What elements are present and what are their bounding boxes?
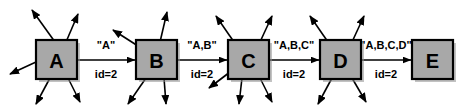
diagram-svg: "A"id=2"A,B"id=2"A,B,C"id=2"A,B,C,D"id=2… (0, 0, 468, 108)
edge-message-d-to-e: "A,B,C,D" (360, 39, 411, 51)
node-b[interactable]: B (136, 40, 180, 82)
node-label-a: A (49, 50, 63, 72)
node-a[interactable]: A (36, 40, 80, 82)
external-arrow-a-1 (66, 14, 78, 42)
edge-id-a-to-b: id=2 (95, 68, 117, 80)
edge-id-b-to-c: id=2 (191, 68, 213, 80)
edge-id-d-to-e: id=2 (375, 68, 397, 80)
node-d[interactable]: D (320, 40, 364, 82)
node-label-b: B (149, 50, 163, 72)
node-label-c: C (241, 50, 255, 72)
diagram-canvas: "A"id=2"A,B"id=2"A,B,C"id=2"A,B,C,D"id=2… (0, 0, 468, 108)
external-arrow-b-1 (160, 12, 167, 42)
external-arrow-a-2 (10, 62, 36, 74)
node-label-e: E (426, 50, 439, 72)
external-arrow-c-0 (216, 16, 234, 42)
node-c[interactable]: C (228, 40, 272, 82)
edge-message-b-to-c: "A,B" (187, 39, 216, 51)
edge-id-c-to-d: id=2 (283, 68, 305, 80)
external-arrow-a-0 (32, 10, 55, 42)
edge-message-a-to-b: "A" (97, 39, 115, 51)
external-arrow-b-0 (113, 30, 138, 46)
external-arrow-c-1 (260, 16, 272, 42)
edge-message-c-to-d: "A,B,C" (274, 39, 314, 51)
node-label-d: D (333, 50, 347, 72)
node-e[interactable]: E (412, 40, 456, 82)
